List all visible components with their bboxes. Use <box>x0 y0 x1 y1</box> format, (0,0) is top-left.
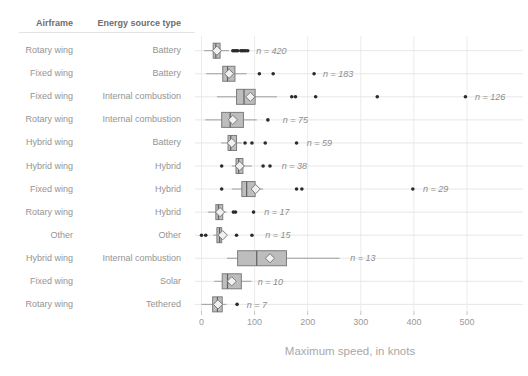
outlier-dot <box>220 164 224 168</box>
outlier-dot <box>236 49 240 53</box>
outlier-dot <box>312 72 316 76</box>
energy-label: Solar <box>0 275 181 287</box>
outlier-dot <box>268 164 272 168</box>
outlier-dot <box>261 164 265 168</box>
outlier-dot <box>250 141 254 145</box>
outlier-dot <box>263 141 267 145</box>
outlier-dot <box>204 233 208 237</box>
outlier-dot <box>252 210 256 214</box>
outlier-dot <box>266 118 270 122</box>
energy-label: Internal combustion <box>0 113 181 125</box>
energy-label: Hybrid <box>0 206 181 218</box>
n-label: n = 420 <box>256 46 286 56</box>
energy-label: Battery <box>0 44 181 56</box>
header-divider <box>19 32 195 33</box>
n-label: n = 7 <box>247 300 268 310</box>
energy-label: Battery <box>0 67 181 79</box>
energy-label: Battery <box>0 136 181 148</box>
n-label: n = 17 <box>264 207 290 217</box>
n-label: n = 59 <box>307 138 332 148</box>
n-label: n = 126 <box>475 92 505 102</box>
x-tick-label: 100 <box>247 317 262 327</box>
x-tick-label: 400 <box>406 317 421 327</box>
n-label: n = 75 <box>283 115 309 125</box>
outlier-dot <box>243 141 247 145</box>
outlier-dot <box>250 233 254 237</box>
n-label: n = 10 <box>258 277 283 287</box>
outlier-dot <box>290 95 294 99</box>
energy-label: Other <box>0 229 181 241</box>
outlier-dot <box>220 187 224 191</box>
outlier-dot <box>271 72 275 76</box>
outlier-dot <box>464 95 468 99</box>
energy-label: Tethered <box>0 298 181 310</box>
x-tick-label: 300 <box>353 317 368 327</box>
x-axis-title: Maximum speed, in knots <box>285 345 415 357</box>
outlier-dot <box>411 187 415 191</box>
energy-label: Internal combustion <box>0 90 181 102</box>
outlier-dot <box>258 72 262 76</box>
n-label: n = 29 <box>423 184 448 194</box>
outlier-dot <box>314 95 318 99</box>
energy-label: Internal combustion <box>0 252 181 264</box>
outlier-dot <box>235 233 239 237</box>
boxplot-figure: 0100200300400500n = 420n = 183n = 126n =… <box>0 0 528 376</box>
x-tick-label: 500 <box>459 317 474 327</box>
outlier-dot <box>235 303 239 307</box>
outlier-dot <box>300 187 304 191</box>
energy-label: Hybrid <box>0 183 181 195</box>
outlier-dot <box>375 95 379 99</box>
outlier-dot <box>295 187 299 191</box>
n-label: n = 183 <box>323 69 353 79</box>
outlier-dot <box>234 210 238 214</box>
column-header-energy: Energy source type <box>0 17 181 29</box>
outlier-dot <box>200 233 204 237</box>
box <box>238 251 287 266</box>
outlier-dot <box>294 95 298 99</box>
energy-label: Hybrid <box>0 160 181 172</box>
outlier-dot <box>246 49 250 53</box>
n-label: n = 15 <box>265 230 291 240</box>
n-label: n = 38 <box>282 161 307 171</box>
n-label: n = 13 <box>350 253 375 263</box>
outlier-dot <box>295 141 299 145</box>
x-tick-label: 0 <box>199 317 204 327</box>
x-tick-label: 200 <box>300 317 315 327</box>
